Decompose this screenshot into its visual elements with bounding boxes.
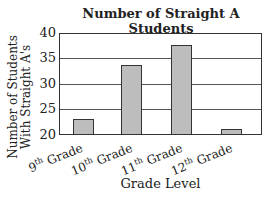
- gridline: [60, 109, 261, 110]
- bar-12th-grade: [221, 129, 242, 134]
- plot-area: [59, 33, 262, 135]
- bar-10th-grade: [121, 65, 142, 134]
- y-tick-25: 25: [30, 101, 56, 116]
- bar-9th-grade: [73, 119, 94, 134]
- gridline: [60, 58, 261, 59]
- y-tick-35: 35: [30, 50, 56, 65]
- bar-11th-grade: [171, 45, 192, 134]
- chart-title: Number of Straight A Students: [56, 6, 266, 36]
- y-tick-40: 40: [30, 25, 56, 40]
- x-axis-label: Grade Level: [59, 176, 262, 191]
- y-tick-30: 30: [30, 76, 56, 91]
- y-axis-label: Number of Students With Straight A's: [7, 22, 33, 172]
- gridline: [60, 84, 261, 85]
- y-tick-20: 20: [30, 127, 56, 142]
